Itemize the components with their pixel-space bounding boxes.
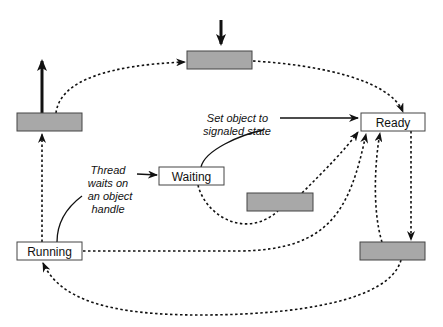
thread-waits-connector [57, 196, 82, 242]
state-ready-label: Ready [376, 116, 411, 130]
state-waiting-label: Waiting [172, 170, 212, 184]
transition-terminated-to-initialized [56, 62, 185, 113]
svg-text:an object: an object [88, 190, 134, 202]
state-ready: Ready [361, 113, 425, 131]
note-thread-waits: Thread waits on an object handle [88, 164, 134, 215]
transition-transition-to-ready [302, 132, 358, 193]
thread-state-diagram: Ready Waiting Running Set object to sign… [0, 0, 443, 327]
state-box-transition [247, 193, 313, 211]
svg-text:handle: handle [91, 203, 124, 215]
state-box-standby [360, 242, 425, 260]
svg-text:Set object to: Set object to [207, 112, 268, 124]
svg-text:Thread: Thread [91, 164, 127, 176]
state-box-terminated [17, 113, 82, 131]
transition-standby-to-running [43, 260, 401, 315]
transition-to-ready [253, 61, 403, 112]
transition-standby-to-ready [375, 133, 382, 242]
svg-text:waits on: waits on [88, 177, 128, 189]
svg-text:signaled state: signaled state [203, 125, 271, 137]
state-running: Running [17, 242, 82, 260]
state-waiting: Waiting [159, 167, 224, 185]
state-box-initialized [187, 51, 252, 69]
thread-waits-arrow [137, 174, 157, 175]
note-set-signaled: Set object to signaled state [203, 112, 271, 137]
state-running-label: Running [27, 245, 72, 259]
